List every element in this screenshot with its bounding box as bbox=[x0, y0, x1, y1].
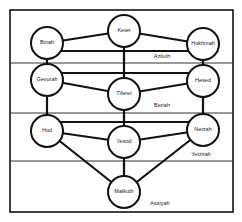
node-binah: Binah bbox=[31, 27, 63, 59]
node-label-hokhmah: Hokhmah bbox=[191, 40, 215, 46]
node-label-yesod: Yesod bbox=[116, 138, 131, 144]
node-label-malkuth: Malkuth bbox=[114, 188, 133, 194]
node-label-tiferet: Tiferet bbox=[116, 90, 132, 96]
node-label-binah: Binah bbox=[40, 39, 54, 45]
node-label-gevurah: Gevurah bbox=[36, 76, 57, 82]
tree-of-life-diagram: Keter Binah Hokhmah Gevurah Hesed Tifere… bbox=[0, 0, 242, 222]
node-netzah: Netzah bbox=[187, 114, 219, 146]
node-label-keter: Keter bbox=[117, 27, 130, 33]
node-gevurah: Gevurah bbox=[31, 64, 63, 96]
node-hod: Hod bbox=[31, 115, 63, 147]
node-yesod: Yesod bbox=[108, 126, 140, 158]
world-label-assiyah: Assiyah bbox=[150, 200, 169, 206]
node-hesed: Hesed bbox=[187, 65, 219, 97]
world-label-aziluth: Aziluth bbox=[154, 53, 171, 59]
node-label-hod: Hod bbox=[42, 127, 52, 133]
node-tiferet: Tiferet bbox=[108, 78, 140, 110]
node-label-netzah: Netzah bbox=[194, 126, 211, 132]
world-label-yetzirah: Yetzirah bbox=[191, 151, 211, 157]
world-label-beriah: Beriah bbox=[154, 102, 170, 108]
paths bbox=[47, 31, 203, 192]
node-label-hesed: Hesed bbox=[195, 77, 211, 83]
node-keter: Keter bbox=[108, 15, 140, 47]
node-malkuth: Malkuth bbox=[108, 176, 140, 208]
node-hokhmah: Hokhmah bbox=[187, 28, 219, 60]
